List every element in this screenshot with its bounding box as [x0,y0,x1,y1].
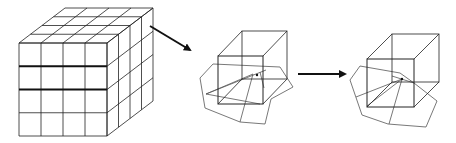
subdivided-grid-cube [19,8,153,136]
cell-with-polyhedron-before [200,31,293,124]
cell-with-polyhedron-after [350,34,439,127]
voronoi-polygon [200,64,293,124]
arrows [150,26,345,74]
arrow-diagonal-icon [150,26,190,50]
cell-diagrams [200,31,439,127]
center-point [256,74,258,76]
diagram-canvas [0,0,456,143]
center-point [401,78,403,80]
